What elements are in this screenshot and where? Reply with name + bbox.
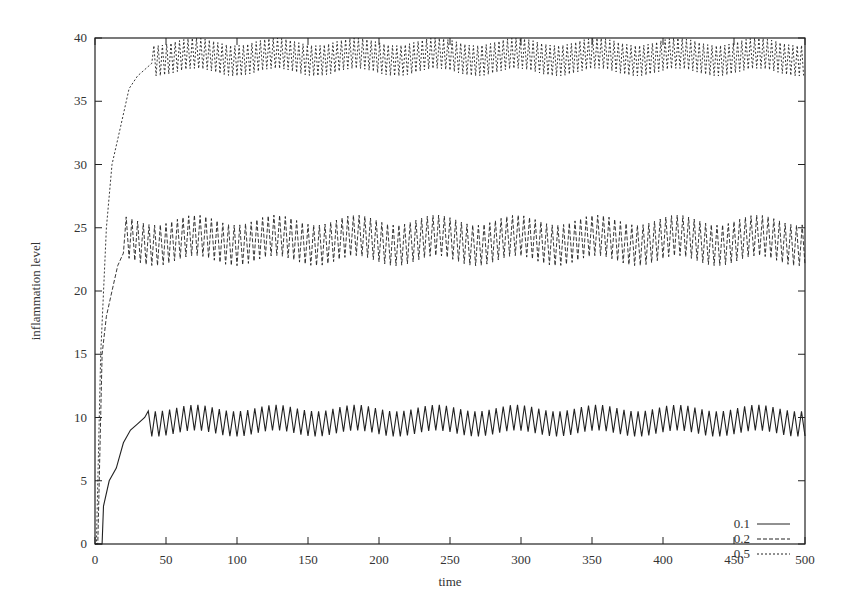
x-tick-label: 350 (582, 552, 602, 567)
y-tick-label: 25 (74, 220, 87, 235)
x-axis-label: time (438, 574, 461, 589)
y-tick-label: 30 (74, 157, 87, 172)
x-tick-label: 200 (369, 552, 389, 567)
x-tick-label: 100 (227, 552, 247, 567)
series-line-0-2 (95, 215, 805, 544)
y-tick-label: 35 (74, 93, 87, 108)
x-tick-label: 400 (653, 552, 673, 567)
y-tick-label: 0 (81, 536, 88, 551)
y-tick-label: 40 (74, 30, 87, 45)
legend-label: 0.1 (734, 516, 750, 531)
x-tick-label: 250 (440, 552, 460, 567)
x-tick-label: 150 (298, 552, 318, 567)
series-line-0-5 (95, 38, 804, 544)
x-tick-label: 300 (511, 552, 531, 567)
y-tick-label: 15 (74, 346, 87, 361)
y-tick-label: 10 (74, 410, 87, 425)
series-layer (95, 38, 805, 544)
legend: 0.10.20.5 (734, 516, 790, 561)
series-line-0-1 (95, 405, 805, 544)
y-tick-label: 20 (74, 283, 87, 298)
x-tick-label: 50 (160, 552, 173, 567)
x-tick-label: 500 (795, 552, 815, 567)
line-chart: 0501001502002503003504004505000510152025… (0, 0, 857, 613)
y-tick-label: 5 (81, 473, 88, 488)
axis-ticks: 0501001502002503003504004505000510152025… (74, 30, 815, 567)
legend-label: 0.2 (734, 531, 750, 546)
legend-label: 0.5 (734, 546, 750, 561)
plot-frame (95, 38, 805, 544)
y-axis-label: inflammation level (28, 241, 43, 340)
x-tick-label: 0 (92, 552, 99, 567)
